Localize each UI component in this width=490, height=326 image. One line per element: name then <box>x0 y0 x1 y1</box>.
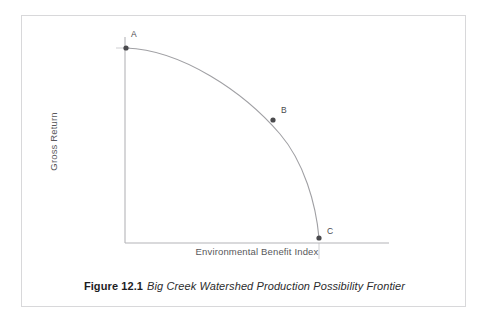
ppf-chart: A B C <box>22 16 467 266</box>
figure-caption: Figure 12.1Big Creek Watershed Productio… <box>22 280 467 292</box>
y-axis-title: Gross Return <box>48 82 59 202</box>
x-axis-title: Environmental Benefit Index <box>125 246 389 257</box>
figure-caption-number: Figure 12.1 <box>84 280 143 292</box>
figure-container: A B C Gross Return Environmental Benefit… <box>0 0 490 326</box>
data-point-b <box>270 117 275 122</box>
data-point-label-b: B <box>281 105 287 115</box>
data-point-a <box>123 45 128 50</box>
figure-caption-title: Big Creek Watershed Production Possibili… <box>147 280 405 292</box>
data-point-label-a: A <box>131 29 137 39</box>
ppf-curve <box>126 48 319 238</box>
data-point-c <box>316 235 321 240</box>
figure-frame: A B C Gross Return Environmental Benefit… <box>21 15 466 307</box>
plot-area: A B C Gross Return Environmental Benefit… <box>22 16 467 266</box>
data-point-label-c: C <box>327 226 333 236</box>
